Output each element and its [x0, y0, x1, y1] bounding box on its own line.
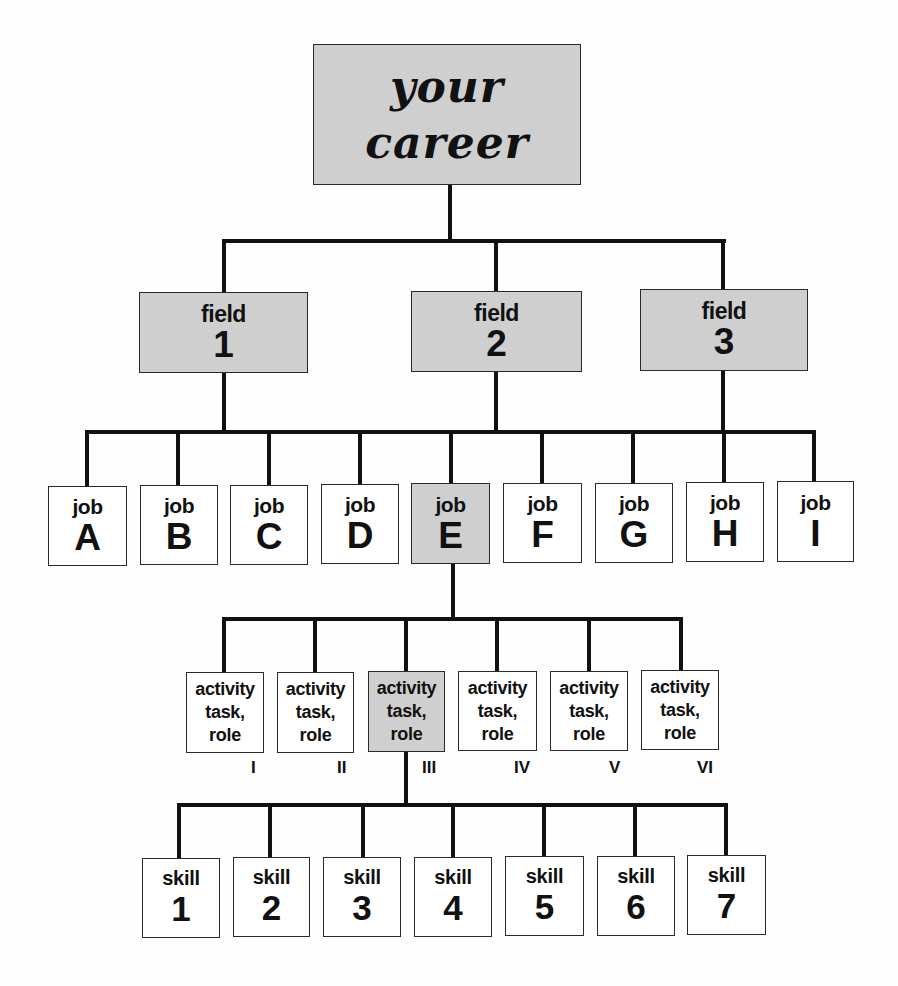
connector-skill-3-up	[361, 803, 365, 858]
job-node-i: job I	[777, 481, 854, 562]
role-label: role	[482, 723, 514, 746]
job-letter: F	[531, 515, 554, 555]
field-number: 1	[213, 326, 234, 364]
job-label: job	[528, 493, 558, 515]
connector-job-a-up	[85, 430, 89, 487]
field-label: field	[702, 299, 747, 323]
connector-activity-1-up	[222, 617, 226, 673]
job-letter: A	[74, 518, 101, 558]
connector-skill-5-up	[542, 803, 546, 857]
connector-field-3-down	[721, 370, 725, 434]
skill-label: skill	[162, 867, 199, 889]
role-label: role	[573, 723, 605, 746]
skill-number: 2	[262, 888, 281, 928]
role-label: role	[664, 722, 696, 745]
activity-node-5: activity task, role	[550, 671, 628, 751]
connector-skill-2-up	[268, 803, 272, 858]
skill-node-3: skill 3	[323, 857, 401, 937]
job-label: job	[164, 495, 194, 517]
field-label: field	[201, 302, 246, 326]
job-label: job	[254, 495, 284, 517]
job-letter: B	[166, 517, 193, 557]
skill-number: 7	[717, 886, 736, 926]
job-node-b: job B	[140, 485, 218, 565]
skill-node-5: skill 5	[505, 856, 584, 936]
connector-skill-7-up	[724, 803, 728, 856]
connector-activity-3-up	[404, 617, 408, 671]
activity-label: activity	[559, 677, 619, 700]
skill-node-2: skill 2	[233, 857, 310, 937]
job-letter: C	[256, 517, 283, 557]
job-label: job	[801, 492, 831, 514]
connector-job-d-up	[358, 430, 362, 485]
connector-job-i-up	[812, 430, 816, 482]
connector-job-g-up	[631, 430, 635, 484]
job-letter: I	[810, 514, 820, 554]
connector-job-e-up	[449, 430, 453, 484]
activity-node-3: activity task, role	[368, 671, 445, 752]
task-label: task,	[569, 700, 609, 723]
job-letter: D	[347, 516, 374, 556]
connector-skill-1-up	[177, 803, 181, 859]
career-hierarchy-diagram: your career field 1 field 2 field 3 job …	[0, 0, 898, 986]
field-node-1: field 1	[139, 292, 308, 373]
skill-label: skill	[343, 866, 380, 888]
connector-job-c-up	[267, 430, 271, 486]
connector-activity-5-up	[587, 617, 591, 671]
activity-numeral-1: I	[251, 758, 256, 778]
skill-number: 3	[352, 888, 371, 928]
skill-label: skill	[708, 864, 745, 886]
connector-job-e-down	[451, 563, 455, 621]
connector-job-f-up	[540, 430, 544, 484]
activity-label: activity	[650, 676, 710, 699]
field-number: 2	[486, 325, 507, 363]
career-label-line2: career	[365, 115, 529, 171]
task-label: task,	[205, 701, 245, 724]
job-label: job	[436, 494, 466, 516]
activity-label: activity	[377, 677, 437, 700]
skill-label: skill	[253, 866, 290, 888]
skill-label: skill	[434, 866, 471, 888]
task-label: task,	[387, 700, 427, 723]
activity-numeral-3: III	[422, 758, 436, 778]
activity-numeral-2: II	[337, 758, 346, 778]
activity-node-2: activity task, role	[277, 672, 354, 753]
task-label: task,	[478, 700, 518, 723]
task-label: task,	[660, 699, 700, 722]
activity-node-4: activity task, role	[458, 671, 537, 751]
activity-numeral-4: IV	[514, 758, 530, 778]
skill-number: 4	[443, 888, 462, 928]
skill-node-7: skill 7	[687, 855, 766, 935]
skill-node-4: skill 4	[414, 857, 492, 937]
job-label: job	[619, 493, 649, 515]
job-label: job	[710, 492, 740, 514]
task-label: task,	[296, 701, 336, 724]
activity-node-1: activity task, role	[186, 672, 264, 753]
connector-activity-2-up	[313, 617, 317, 672]
skill-label: skill	[526, 865, 563, 887]
job-node-d: job D	[321, 484, 399, 564]
job-node-h: job H	[686, 482, 764, 562]
skill-number: 6	[626, 887, 645, 927]
skill-label: skill	[617, 865, 654, 887]
connector-root-down	[448, 184, 452, 241]
activity-numeral-5: V	[609, 758, 620, 778]
role-label: role	[300, 724, 332, 747]
activity-label: activity	[286, 678, 346, 701]
job-node-c: job C	[230, 485, 308, 565]
activity-node-6: activity task, role	[641, 670, 719, 750]
skill-node-1: skill 1	[142, 858, 220, 938]
connector-activity-3-down	[404, 751, 408, 807]
connector-skill-6-up	[633, 803, 637, 857]
job-letter: E	[438, 516, 463, 556]
connector-activities-bar	[222, 617, 683, 621]
activity-numeral-6: VI	[697, 758, 713, 778]
field-node-3: field 3	[640, 289, 808, 371]
connector-job-b-up	[176, 430, 180, 486]
connector-field-1-up	[222, 239, 226, 293]
skill-number: 5	[535, 887, 554, 927]
connector-job-h-up	[722, 430, 726, 483]
job-letter: H	[712, 514, 739, 554]
activity-label: activity	[468, 677, 528, 700]
skill-node-6: skill 6	[597, 856, 675, 936]
